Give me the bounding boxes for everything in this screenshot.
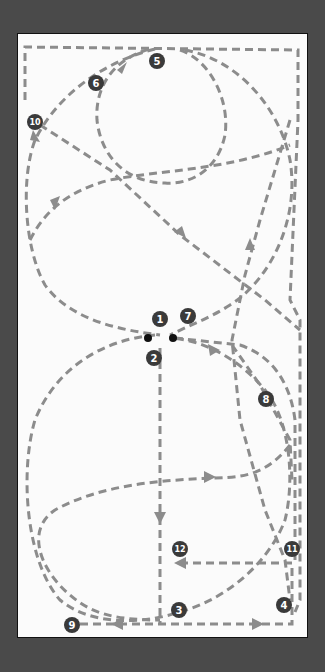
start-dot <box>169 334 177 342</box>
marker-2: 2 <box>146 350 162 366</box>
arrow-icon <box>204 471 216 483</box>
marker-9: 9 <box>64 617 80 633</box>
marker-1: 1 <box>152 311 168 327</box>
arrow-icon <box>154 512 166 524</box>
path-diagonal-10 <box>40 125 300 330</box>
marker-5: 5 <box>149 53 165 69</box>
marker-11: 11 <box>284 541 300 557</box>
svg-text:3: 3 <box>176 605 183 616</box>
svg-text:10: 10 <box>29 118 41 127</box>
movement-diagram: 1 2 3 4 5 6 7 8 9 10 11 12 <box>0 0 325 672</box>
marker-3: 3 <box>171 602 187 618</box>
svg-text:1: 1 <box>157 314 164 325</box>
marker-7: 7 <box>180 308 196 324</box>
arrow-icon <box>252 618 264 630</box>
path-upper-right-arc <box>170 50 292 335</box>
marker-6: 6 <box>88 75 104 91</box>
arrow-icon <box>245 238 255 250</box>
path-bottom-line <box>80 565 292 624</box>
path-lower-s-curve <box>39 445 290 620</box>
svg-text:5: 5 <box>154 56 161 67</box>
marker-12: 12 <box>172 541 188 557</box>
path-upper-cross <box>30 145 290 240</box>
arrow-icon <box>174 557 186 569</box>
svg-text:11: 11 <box>286 545 298 554</box>
svg-text:12: 12 <box>174 545 185 554</box>
svg-text:9: 9 <box>69 620 76 631</box>
svg-text:2: 2 <box>151 353 158 364</box>
start-dot <box>144 334 152 342</box>
arrow-icon <box>174 226 186 238</box>
path-upper-inner-circle <box>97 49 226 183</box>
path-lower-circle <box>27 335 290 621</box>
path-upper-left-loop <box>26 49 160 335</box>
arrow-icon <box>208 344 220 356</box>
marker-8: 8 <box>258 391 274 407</box>
svg-text:6: 6 <box>93 78 100 89</box>
path-right-upper-lower <box>175 338 295 560</box>
marker-10: 10 <box>27 114 43 130</box>
marker-4: 4 <box>276 597 292 613</box>
svg-text:4: 4 <box>281 600 288 611</box>
path-outer-frame <box>25 47 300 612</box>
svg-text:7: 7 <box>185 311 192 322</box>
svg-text:8: 8 <box>263 394 270 405</box>
